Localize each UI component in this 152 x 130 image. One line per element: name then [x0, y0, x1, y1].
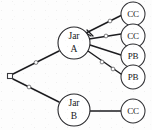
leaf-node-cc-3[interactable]: CC [121, 99, 145, 123]
leaf-node-pb-1[interactable]: PB [121, 44, 145, 68]
node-jar-a[interactable]: Jar A [58, 27, 90, 59]
edge-jar-a-to-leaf-a-4 [88, 51, 121, 74]
node-jar-b[interactable]: Jar B [58, 94, 90, 126]
jar-b-label-line2: B [71, 111, 77, 121]
leaf-a-3-label: PB [128, 51, 139, 61]
leaf-b-1-label: CC [127, 106, 139, 116]
node-root[interactable] [8, 74, 13, 79]
edge-jar-a-to-leaf-a-3 [90, 45, 121, 55]
edge-marker-jar-a-leaf-4b [111, 67, 115, 71]
jar-a-label-line2: A [71, 44, 78, 54]
edge-marker-jar-a-leaf-2 [104, 34, 108, 38]
edge-group-jar-a [86, 15, 122, 74]
jar-b-label-line1: Jar [68, 98, 80, 108]
jar-a-label-line1: Jar [68, 31, 80, 41]
tree-diagram-canvas: Jar A Jar B CC CC PB PB CC [0, 0, 152, 130]
edge-group-root [13, 51, 59, 102]
leaf-a-1-label: CC [127, 9, 139, 19]
edge-marker-jar-a-leaf-4a [100, 60, 104, 64]
leaf-node-cc-1[interactable]: CC [121, 2, 145, 26]
leaf-a-2-label: CC [127, 31, 139, 41]
leaf-a-4-label: PB [128, 72, 139, 82]
edge-marker-root-jar-a [34, 61, 38, 65]
edge-jar-a-to-leaf-a-1 [86, 15, 122, 33]
leaf-node-pb-2[interactable]: PB [121, 65, 145, 89]
edge-marker-root-jar-b [27, 85, 31, 89]
probability-tree-diagram: Jar A Jar B CC CC PB PB CC [0, 0, 152, 130]
root-node-square [8, 74, 13, 79]
edge-marker-jar-a-leaf-1 [108, 19, 112, 23]
edge-root-to-jar-b [13, 79, 59, 102]
